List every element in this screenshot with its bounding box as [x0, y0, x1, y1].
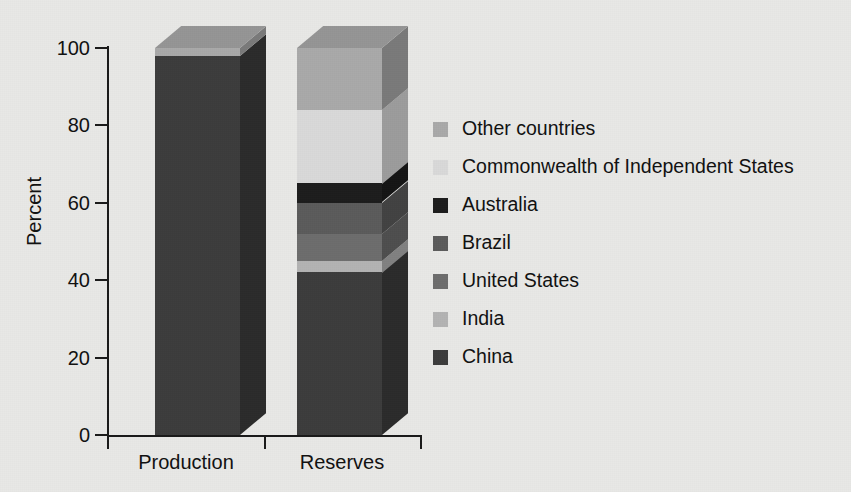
- bar-segment[interactable]: [297, 183, 382, 202]
- legend-item-label: India: [462, 309, 504, 329]
- legend-swatch-icon: [433, 122, 448, 137]
- legend-item-label: United States: [462, 271, 579, 291]
- bar-segment[interactable]: [297, 48, 382, 110]
- legend-swatch-icon: [433, 274, 448, 289]
- legend-item[interactable]: United States: [433, 262, 843, 300]
- chart-legend: Other countriesCommonwealth of Independe…: [433, 110, 843, 376]
- legend-item[interactable]: Australia: [433, 186, 843, 224]
- legend-swatch-icon: [433, 312, 448, 327]
- legend-item[interactable]: China: [433, 338, 843, 376]
- legend-item-label: China: [462, 347, 513, 367]
- bar-segment[interactable]: [297, 110, 382, 184]
- legend-swatch-icon: [433, 198, 448, 213]
- bar-segment[interactable]: [297, 272, 382, 435]
- legend-item-label: Other countries: [462, 119, 595, 139]
- legend-item-label: Brazil: [462, 233, 511, 253]
- bar-segment[interactable]: [297, 234, 382, 261]
- bar-segment[interactable]: [297, 203, 382, 234]
- legend-item[interactable]: India: [433, 300, 843, 338]
- bar-segment[interactable]: [297, 261, 382, 273]
- legend-swatch-icon: [433, 160, 448, 175]
- legend-item-label: Australia: [462, 195, 538, 215]
- legend-swatch-icon: [433, 350, 448, 365]
- legend-item[interactable]: Brazil: [433, 224, 843, 262]
- legend-swatch-icon: [433, 236, 448, 251]
- bar-segment-side-face: [382, 251, 408, 435]
- legend-item[interactable]: Commonwealth of Independent States: [433, 148, 843, 186]
- chart-canvas: Percent 100806040200 ProductionReserves …: [0, 0, 851, 492]
- legend-item-label: Commonwealth of Independent States: [462, 157, 794, 177]
- legend-item[interactable]: Other countries: [433, 110, 843, 148]
